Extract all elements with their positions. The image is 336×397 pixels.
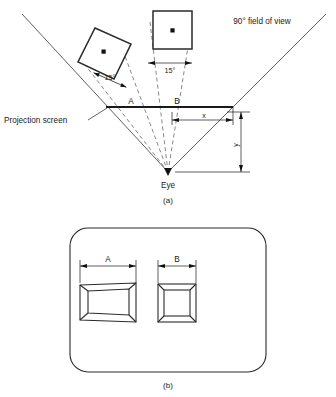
- panel-a: 15° 15° 90° field of view Projection scr…: [4, 11, 326, 205]
- angle-a-label: 15°: [105, 73, 116, 82]
- figure-container: 15° 15° 90° field of view Projection scr…: [0, 0, 336, 397]
- panel-b-dim-b-arrow-right: [189, 264, 196, 268]
- angle-dimension-a: 15°: [93, 71, 128, 89]
- dimension-y: y: [175, 112, 250, 172]
- projection-screen-label: Projection screen: [4, 116, 68, 125]
- object-a-center-dot: [102, 50, 106, 54]
- panel-b-dim-a-label: A: [105, 255, 111, 264]
- panel-a-caption: (a): [163, 196, 173, 205]
- panel-b-dim-b-arrow-left: [158, 264, 165, 268]
- angle-a-arrow-right: [120, 83, 127, 89]
- dimension-y-label: y: [231, 143, 240, 147]
- segment-label-b: B: [174, 97, 180, 106]
- eye-label: Eye: [161, 181, 176, 190]
- cone-a-ray-inner: [119, 40, 168, 172]
- dimension-x-arrow-right: [226, 118, 233, 122]
- dimension-x-arrow-left: [172, 118, 179, 122]
- angle-dimension-b: 15°: [148, 61, 192, 75]
- fov-label: 90° field of view: [233, 17, 291, 26]
- panel-b-caption: (b): [163, 381, 173, 390]
- projection-screen-annotation: Projection screen: [4, 108, 107, 125]
- panel-b-dimension-a: A: [80, 255, 136, 283]
- diagram-svg: 15° 15° 90° field of view Projection scr…: [0, 0, 336, 397]
- angle-b-arrow-right: [185, 61, 192, 65]
- object-b-square: [153, 11, 192, 49]
- dimension-y-arrow-bottom: [239, 165, 243, 172]
- panel-b-shape-a-inner: [88, 289, 129, 315]
- panel-b-dimension-b: B: [158, 255, 196, 283]
- eye-apex-dot: [164, 168, 172, 176]
- angle-b-label: 15°: [165, 66, 176, 75]
- segment-label-a: A: [128, 97, 134, 106]
- panel-b-dim-a-arrow-right: [129, 264, 136, 268]
- angle-b-arrow-left: [148, 61, 155, 65]
- panel-b-shape-a: [80, 283, 136, 322]
- panel-b: A B: [70, 228, 266, 390]
- projection-screen-leader: [88, 108, 107, 120]
- panel-b-dim-b-label: B: [174, 255, 180, 264]
- object-b-center-dot: [170, 28, 174, 32]
- dimension-y-arrow-top: [239, 112, 243, 119]
- object-a-square: [78, 28, 131, 79]
- cone-a-ray-outer: [86, 66, 168, 172]
- panel-b-shape-b: [158, 284, 196, 322]
- panel-b-dim-a-arrow-left: [80, 264, 87, 268]
- panel-b-shape-b-inner: [164, 290, 190, 316]
- eye-marker-group: Eye: [161, 168, 176, 190]
- dimension-x-label: x: [202, 111, 206, 120]
